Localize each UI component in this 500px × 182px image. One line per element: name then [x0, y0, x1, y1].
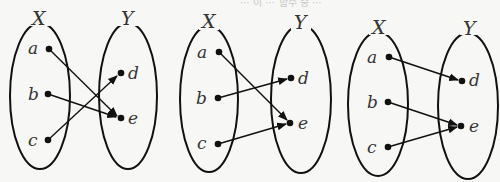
element-e: e [298, 113, 308, 133]
arrow-a-to-e [219, 52, 287, 120]
dot-e [118, 115, 125, 122]
panel-1: X Y a b c d e [10, 7, 157, 169]
panel-3: X Y a b c d e [348, 16, 498, 179]
element-e: e [469, 116, 479, 136]
set-y-ellipse [271, 25, 331, 173]
set-x-label: X [370, 16, 387, 38]
dot-d [288, 75, 295, 82]
arrow-a-to-d [389, 57, 458, 80]
element-d: d [128, 63, 139, 83]
dot-d [118, 70, 125, 77]
element-b: b [28, 84, 39, 104]
panel-2: X Y a b c d e [180, 10, 331, 173]
element-d: d [298, 68, 309, 88]
dot-d [459, 78, 466, 85]
set-x-ellipse [180, 26, 238, 172]
arrow-c-to-d [48, 76, 117, 140]
set-x-label: X [200, 10, 217, 32]
set-y-ellipse [438, 33, 498, 179]
element-a: a [28, 38, 38, 58]
element-b: b [196, 88, 207, 108]
arrow-b-to-e [388, 102, 457, 125]
element-a: a [367, 47, 377, 67]
element-d: d [469, 70, 480, 90]
element-e: e [128, 108, 138, 128]
dot-e [458, 123, 465, 130]
element-a: a [197, 42, 207, 62]
cropped-header-text: ⋯ 이 ⋯ 함수 중 ⋯ [240, 0, 322, 8]
function-mapping-diagrams: ⋯ 이 ⋯ 함수 중 ⋯ X Y a b c d e X Y a b c d e [0, 0, 500, 182]
dot-e [287, 120, 294, 127]
set-y-ellipse [99, 23, 157, 169]
set-x-label: X [30, 7, 47, 29]
element-c: c [28, 130, 38, 150]
element-c: c [367, 137, 377, 157]
element-c: c [197, 133, 207, 153]
arrow-b-to-d [218, 79, 287, 98]
set-x-ellipse [348, 32, 408, 176]
element-b: b [367, 92, 378, 112]
set-x-ellipse [10, 23, 70, 169]
arrow-c-to-e [388, 127, 457, 147]
